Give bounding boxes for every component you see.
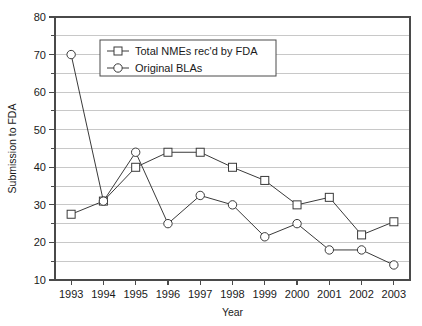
y-axis: 1020304050607080Submission to FDA <box>6 11 55 286</box>
y-tick-label: 60 <box>34 86 46 98</box>
y-tick-label: 80 <box>34 11 46 23</box>
x-axis-title: Year <box>222 306 244 318</box>
data-point-square <box>261 176 269 184</box>
data-point-circle <box>228 201 236 209</box>
data-point-circle <box>99 197 107 205</box>
data-point-circle <box>196 191 204 199</box>
x-tick-label: 1996 <box>156 288 180 300</box>
y-tick-label: 50 <box>34 124 46 136</box>
data-point-circle <box>131 148 139 156</box>
series-2 <box>67 50 398 269</box>
legend-label: Total NMEs rec'd by FDA <box>135 45 258 57</box>
y-tick-label: 30 <box>34 199 46 211</box>
x-tick-label: 2002 <box>349 288 373 300</box>
x-tick-label: 1998 <box>220 288 244 300</box>
y-tick-label: 40 <box>34 161 46 173</box>
legend: Total NMEs rec'd by FDAOriginal BLAs <box>100 40 276 76</box>
line-chart: 1020304050607080Submission to FDA1993199… <box>0 0 422 326</box>
data-point-square <box>229 163 237 171</box>
data-point-circle <box>164 219 172 227</box>
legend-marker-circle <box>114 64 122 72</box>
x-tick-label: 2003 <box>382 288 406 300</box>
data-point-circle <box>67 50 75 58</box>
data-point-circle <box>293 219 301 227</box>
x-tick-label: 1994 <box>91 288 115 300</box>
data-point-circle <box>325 246 333 254</box>
data-point-circle <box>390 261 398 269</box>
data-point-circle <box>261 233 269 241</box>
x-tick-label: 1993 <box>59 288 83 300</box>
data-point-square <box>196 148 204 156</box>
y-tick-label: 10 <box>34 274 46 286</box>
x-axis: 1993199419951996199719981999200020012002… <box>59 280 406 318</box>
data-point-square <box>164 148 172 156</box>
x-tick-label: 2000 <box>285 288 309 300</box>
data-point-square <box>325 193 333 201</box>
x-tick-label: 1999 <box>253 288 277 300</box>
series-line <box>71 55 394 265</box>
series-1 <box>67 148 398 239</box>
legend-marker-square <box>114 47 122 55</box>
data-point-square <box>293 201 301 209</box>
y-axis-title: Submission to FDA <box>6 104 18 194</box>
data-point-square <box>132 163 140 171</box>
data-point-circle <box>357 246 365 254</box>
x-tick-label: 2001 <box>317 288 341 300</box>
x-tick-label: 1997 <box>188 288 212 300</box>
data-point-square <box>358 231 366 239</box>
x-tick-label: 1995 <box>123 288 147 300</box>
y-tick-label: 20 <box>34 236 46 248</box>
data-point-square <box>390 218 398 226</box>
data-point-square <box>67 210 75 218</box>
y-tick-label: 70 <box>34 49 46 61</box>
legend-label: Original BLAs <box>135 62 203 74</box>
chart-container: 1020304050607080Submission to FDA1993199… <box>0 0 422 326</box>
